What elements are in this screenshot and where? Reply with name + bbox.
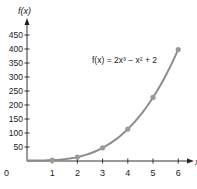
data-point [176,47,181,52]
x-tick-label: 1 [50,168,55,178]
function-equation-label: f(x) = 2x³ − x² + 2 [92,55,157,65]
x-tick-label: 5 [150,168,155,178]
data-point [75,154,80,159]
function-graph: 50100150200250300350400450 123456 f(x) x… [0,0,197,189]
data-point [100,145,105,150]
data-point [150,95,155,100]
chart-svg: 50100150200250300350400450 123456 f(x) x… [0,0,197,189]
x-tick-label: 4 [125,168,130,178]
y-tick-label: 50 [14,142,24,152]
x-tick-label: 3 [100,168,105,178]
y-tick-label: 450 [9,30,23,40]
data-point [125,126,130,131]
x-tick-label: 6 [176,168,181,178]
y-tick-label: 200 [9,100,23,110]
y-tick-label: 300 [9,72,23,82]
y-tick-label: 350 [9,58,23,68]
y-tick-label: 150 [9,114,23,124]
x-tick-label: 2 [75,168,80,178]
y-tick-label: 100 [9,128,23,138]
y-tick-label: 400 [9,44,23,54]
y-axis-ticks: 50100150200250300350400450 [9,30,30,152]
x-axis-arrow-icon [187,159,194,164]
origin-label: 0 [4,168,9,178]
function-curve [27,50,178,161]
y-axis-label: f(x) [18,6,31,16]
x-axis-label: x [194,157,197,167]
data-point [50,158,55,163]
y-tick-label: 250 [9,86,23,96]
y-axis-arrow-icon [25,18,30,25]
